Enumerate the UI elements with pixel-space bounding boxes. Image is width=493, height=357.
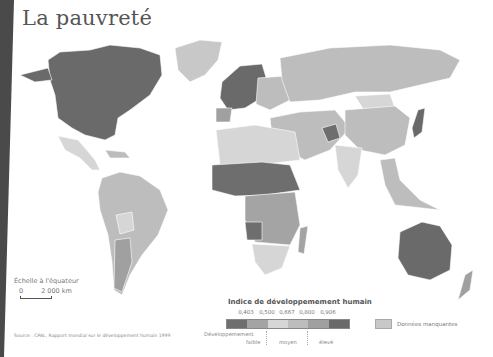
legend-title: Indice de développemement humain <box>228 298 372 306</box>
categories-label: Développemement <box>204 331 254 337</box>
scale-end: 2 000 km <box>41 287 72 295</box>
region-southern-africa <box>252 244 290 275</box>
region-angola <box>245 222 262 240</box>
region-russia <box>280 45 460 102</box>
legend-missing-data: Données manquantes <box>375 319 457 329</box>
scale-bar: Échelle à l'équateur 0 2 000 km <box>14 277 79 299</box>
region-alaska <box>20 68 52 82</box>
class-1-swatch <box>227 320 247 328</box>
region-argentina <box>114 238 132 292</box>
region-india <box>335 145 362 188</box>
class-6-swatch <box>329 320 349 328</box>
category-medium: moyen <box>279 339 297 345</box>
region-caribbean <box>105 150 130 158</box>
scale-line <box>20 296 52 299</box>
region-iberia <box>216 108 232 122</box>
region-new-zealand <box>458 270 473 300</box>
legend-categories: Développemement faible moyen élevé <box>226 329 372 349</box>
class-3-swatch <box>268 320 288 328</box>
class-5-swatch <box>308 320 328 328</box>
legend: Indice de développemement humain 0,403 0… <box>226 298 372 349</box>
region-north-america <box>48 45 162 140</box>
region-madagascar <box>298 226 308 254</box>
source-note: Source : CPAL, Rapport mondial sur le dé… <box>14 333 170 338</box>
region-mexico <box>58 136 100 170</box>
region-australia <box>398 222 452 280</box>
category-low: faible <box>246 339 260 345</box>
tick-3: 0,667 <box>279 309 295 315</box>
tick-1: 0,403 <box>238 309 254 315</box>
category-high: élevé <box>319 339 333 345</box>
map-title: La pauvreté <box>22 6 152 30</box>
missing-swatch <box>375 319 392 329</box>
legend-ticks: 0,403 0,500 0,667 0,800 0,906 <box>226 309 372 319</box>
missing-label: Données manquantes <box>397 321 457 327</box>
region-south-america <box>98 172 168 295</box>
region-southeast-asia <box>380 158 440 210</box>
scale-start: 0 <box>19 287 23 295</box>
class-2-swatch <box>247 320 267 328</box>
region-japan <box>412 108 425 138</box>
class-4-swatch <box>288 320 308 328</box>
tick-4: 0,800 <box>299 309 315 315</box>
legend-color-bar <box>226 319 350 329</box>
region-north-africa <box>216 125 300 165</box>
tick-2: 0,500 <box>259 309 275 315</box>
region-greenland <box>175 40 222 82</box>
scale-label: Échelle à l'équateur <box>14 277 79 285</box>
tick-5: 0,906 <box>320 309 336 315</box>
region-sahel <box>212 162 300 196</box>
